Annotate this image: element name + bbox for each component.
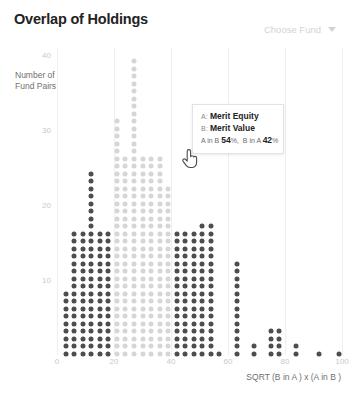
data-point-dot[interactable] bbox=[166, 239, 171, 244]
data-point-dot[interactable] bbox=[114, 254, 119, 259]
data-point-dot[interactable] bbox=[268, 344, 273, 349]
data-point-dot[interactable] bbox=[200, 291, 205, 296]
data-point-dot[interactable] bbox=[63, 291, 68, 296]
data-point-dot[interactable] bbox=[106, 329, 111, 334]
data-point-dot[interactable] bbox=[89, 194, 94, 199]
data-point-dot[interactable] bbox=[80, 231, 85, 236]
data-point-dot[interactable] bbox=[140, 284, 145, 289]
data-point-dot[interactable] bbox=[123, 314, 128, 319]
data-point-dot[interactable] bbox=[157, 254, 162, 259]
data-point-dot[interactable] bbox=[183, 314, 188, 319]
data-point-dot[interactable] bbox=[63, 321, 68, 326]
data-point-dot[interactable] bbox=[140, 254, 145, 259]
data-point-dot[interactable] bbox=[80, 269, 85, 274]
data-point-dot[interactable] bbox=[140, 344, 145, 349]
data-point-dot[interactable] bbox=[131, 306, 136, 311]
data-point-dot[interactable] bbox=[89, 336, 94, 341]
data-point-dot[interactable] bbox=[149, 291, 154, 296]
data-point-dot[interactable] bbox=[208, 344, 213, 349]
data-point-dot[interactable] bbox=[191, 269, 196, 274]
data-point-dot[interactable] bbox=[114, 119, 119, 124]
data-point-dot[interactable] bbox=[208, 254, 213, 259]
data-point-dot[interactable] bbox=[72, 321, 77, 326]
data-point-dot[interactable] bbox=[131, 246, 136, 251]
data-point-dot[interactable] bbox=[131, 299, 136, 304]
data-point-dot[interactable] bbox=[149, 179, 154, 184]
data-point-dot[interactable] bbox=[131, 194, 136, 199]
data-point-dot[interactable] bbox=[157, 291, 162, 296]
data-point-dot[interactable] bbox=[157, 231, 162, 236]
data-point-dot[interactable] bbox=[217, 351, 222, 356]
data-point-dot[interactable] bbox=[131, 66, 136, 71]
data-point-dot[interactable] bbox=[63, 351, 68, 356]
data-point-dot[interactable] bbox=[123, 179, 128, 184]
data-point-dot[interactable] bbox=[157, 186, 162, 191]
data-point-dot[interactable] bbox=[106, 231, 111, 236]
data-point-dot[interactable] bbox=[277, 336, 282, 341]
data-point-dot[interactable] bbox=[157, 299, 162, 304]
data-point-dot[interactable] bbox=[131, 231, 136, 236]
data-point-dot[interactable] bbox=[131, 126, 136, 131]
data-point-dot[interactable] bbox=[200, 351, 205, 356]
data-point-dot[interactable] bbox=[140, 306, 145, 311]
data-point-dot[interactable] bbox=[166, 299, 171, 304]
data-point-dot[interactable] bbox=[208, 246, 213, 251]
data-point-dot[interactable] bbox=[106, 306, 111, 311]
data-point-dot[interactable] bbox=[208, 299, 213, 304]
data-point-dot[interactable] bbox=[140, 246, 145, 251]
data-point-dot[interactable] bbox=[89, 254, 94, 259]
data-point-dot[interactable] bbox=[131, 351, 136, 356]
data-point-dot[interactable] bbox=[174, 276, 179, 281]
data-point-dot[interactable] bbox=[200, 329, 205, 334]
data-point-dot[interactable] bbox=[208, 276, 213, 281]
data-point-dot[interactable] bbox=[114, 336, 119, 341]
data-point-dot[interactable] bbox=[131, 59, 136, 64]
data-point-dot[interactable] bbox=[149, 336, 154, 341]
data-point-dot[interactable] bbox=[174, 321, 179, 326]
data-point-dot[interactable] bbox=[157, 329, 162, 334]
data-point-dot[interactable] bbox=[200, 276, 205, 281]
data-point-dot[interactable] bbox=[114, 261, 119, 266]
data-point-dot[interactable] bbox=[191, 291, 196, 296]
data-point-dot[interactable] bbox=[97, 269, 102, 274]
data-point-dot[interactable] bbox=[149, 171, 154, 176]
data-point-dot[interactable] bbox=[131, 89, 136, 94]
data-point-dot[interactable] bbox=[97, 291, 102, 296]
data-point-dot[interactable] bbox=[89, 201, 94, 206]
data-point-dot[interactable] bbox=[166, 261, 171, 266]
data-point-dot[interactable] bbox=[149, 156, 154, 161]
data-point-dot[interactable] bbox=[123, 216, 128, 221]
data-point-dot[interactable] bbox=[140, 239, 145, 244]
data-point-dot[interactable] bbox=[149, 164, 154, 169]
data-point-dot[interactable] bbox=[166, 336, 171, 341]
data-point-dot[interactable] bbox=[106, 336, 111, 341]
data-point-dot[interactable] bbox=[149, 231, 154, 236]
data-point-dot[interactable] bbox=[183, 306, 188, 311]
data-point-dot[interactable] bbox=[72, 254, 77, 259]
data-point-dot[interactable] bbox=[200, 231, 205, 236]
data-point-dot[interactable] bbox=[183, 284, 188, 289]
data-point-dot[interactable] bbox=[234, 321, 239, 326]
data-point-dot[interactable] bbox=[157, 261, 162, 266]
data-point-dot[interactable] bbox=[149, 314, 154, 319]
data-point-dot[interactable] bbox=[72, 336, 77, 341]
data-point-dot[interactable] bbox=[131, 209, 136, 214]
data-point-dot[interactable] bbox=[89, 246, 94, 251]
data-point-dot[interactable] bbox=[294, 351, 299, 356]
data-point-dot[interactable] bbox=[149, 344, 154, 349]
data-point-dot[interactable] bbox=[166, 254, 171, 259]
data-point-dot[interactable] bbox=[89, 171, 94, 176]
data-point-dot[interactable] bbox=[183, 276, 188, 281]
data-point-dot[interactable] bbox=[72, 314, 77, 319]
data-point-dot[interactable] bbox=[89, 186, 94, 191]
data-point-dot[interactable] bbox=[277, 344, 282, 349]
data-point-dot[interactable] bbox=[123, 269, 128, 274]
data-point-dot[interactable] bbox=[72, 329, 77, 334]
data-point-dot[interactable] bbox=[80, 276, 85, 281]
data-point-dot[interactable] bbox=[63, 336, 68, 341]
data-point-dot[interactable] bbox=[106, 344, 111, 349]
data-point-dot[interactable] bbox=[251, 344, 256, 349]
data-point-dot[interactable] bbox=[200, 336, 205, 341]
data-point-dot[interactable] bbox=[174, 336, 179, 341]
data-point-dot[interactable] bbox=[140, 171, 145, 176]
